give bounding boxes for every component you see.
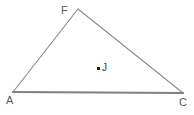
triangle-drawing <box>0 0 194 115</box>
edge-FC <box>78 9 183 93</box>
edge-AC <box>13 92 183 93</box>
edge-AF <box>13 9 78 92</box>
interior-point-label-J: J <box>102 63 107 73</box>
vertex-label-F: F <box>61 5 68 16</box>
vertex-label-A: A <box>6 95 13 106</box>
vertex-label-C: C <box>179 97 187 108</box>
interior-point-marker-J <box>97 67 100 70</box>
geometry-figure-canvas: A F C J <box>0 0 194 115</box>
